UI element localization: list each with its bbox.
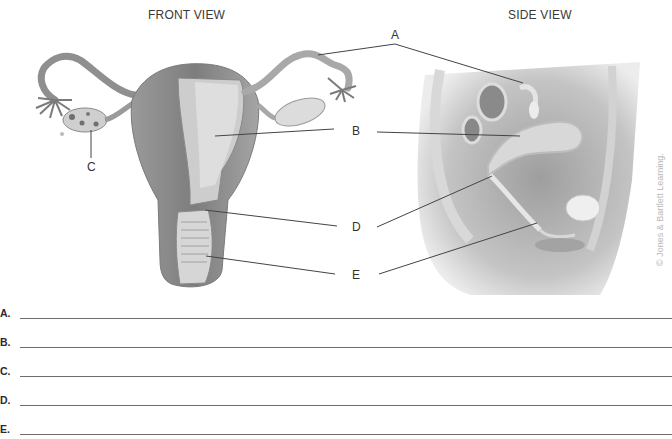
copyright-notice: © Jones & Bartlett Learning. <box>655 153 665 266</box>
answer-row-b: B. <box>0 336 672 354</box>
answer-field-a[interactable] <box>20 318 672 319</box>
answer-letter: E. <box>0 423 10 435</box>
answer-field-e[interactable] <box>20 434 672 435</box>
answer-letter: A. <box>0 307 11 319</box>
answer-field-c[interactable] <box>20 376 672 377</box>
side-view-figure <box>418 62 640 295</box>
answer-letter: B. <box>0 336 11 348</box>
front-view-figure <box>36 54 356 287</box>
callout-d: D <box>352 220 361 234</box>
answer-field-d[interactable] <box>20 405 672 406</box>
callout-c: C <box>87 160 96 174</box>
answer-letter: C. <box>0 365 11 377</box>
answer-letter: D. <box>0 394 11 406</box>
answer-field-b[interactable] <box>20 347 672 348</box>
answer-row-e: E. <box>0 423 672 439</box>
answer-row-c: C. <box>0 365 672 383</box>
answer-row-d: D. <box>0 394 672 412</box>
answer-row-a: A. <box>0 307 672 325</box>
callout-a: A <box>391 28 399 42</box>
callout-b: B <box>352 124 360 138</box>
callout-e: E <box>352 268 360 282</box>
anatomy-illustration <box>0 0 672 300</box>
